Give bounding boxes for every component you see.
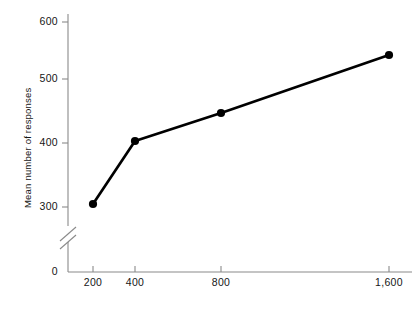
axis-break-slash-upper — [60, 227, 76, 241]
data-series-line — [93, 55, 389, 204]
y-tick-label-500: 500 — [20, 72, 58, 84]
chart-figure: 600 500 400 300 0 200 400 800 1,600 Mean… — [0, 0, 414, 309]
data-point-marker — [89, 200, 97, 208]
y-tick-label-0: 0 — [20, 265, 58, 277]
y-axis-title: Mean number of responses — [22, 88, 33, 208]
x-tick-label-400: 400 — [110, 276, 160, 288]
data-point-marker — [217, 109, 225, 117]
data-point-marker — [131, 137, 139, 145]
y-tick-label-600: 600 — [20, 15, 58, 27]
x-tick-label-800: 800 — [196, 276, 246, 288]
x-tick-label-1600: 1,600 — [362, 276, 414, 288]
chart-canvas — [0, 0, 414, 309]
data-point-marker — [385, 51, 393, 59]
